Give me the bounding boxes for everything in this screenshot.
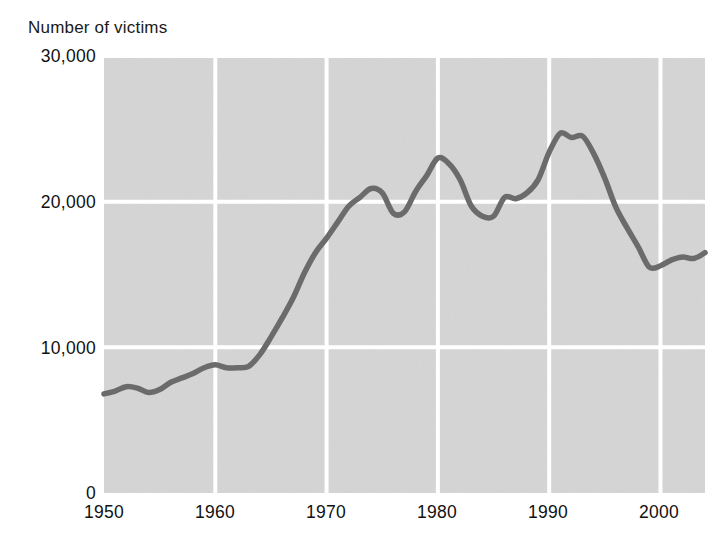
victims-line-chart: Number of victims 30,000 20,000 10,000 0… [0,0,726,545]
plot-area [0,0,726,545]
plot-background [104,56,705,493]
